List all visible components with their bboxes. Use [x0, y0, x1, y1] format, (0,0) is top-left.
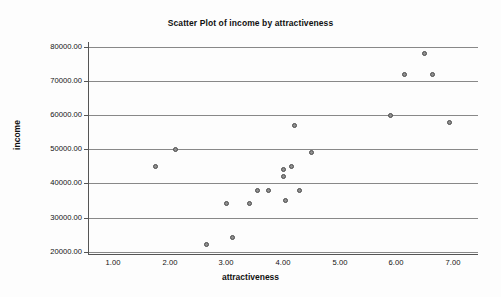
x-tick-label: 4.00 [263, 258, 303, 267]
scatter-point [153, 164, 158, 169]
chart-figure: Scatter Plot of income by attractiveness… [0, 0, 501, 297]
scatter-point [281, 167, 286, 172]
scatter-point [297, 188, 302, 193]
scatter-point [281, 174, 286, 179]
scatter-point [247, 201, 252, 206]
scatter-point [204, 242, 209, 247]
y-tick-label: 40000.00 [26, 178, 82, 187]
scatter-point [173, 147, 178, 152]
scatter-point [289, 164, 294, 169]
x-tick-label: 6.00 [376, 258, 416, 267]
x-tick-label: 7.00 [433, 258, 473, 267]
y-axis-label: income [12, 105, 22, 165]
x-axis-line [88, 254, 478, 255]
x-axis-label: attractiveness [0, 272, 501, 282]
y-tick-label: 80000.00 [26, 42, 82, 51]
x-tick-label: 2.00 [150, 258, 190, 267]
gridline-y [88, 183, 478, 184]
scatter-point [292, 123, 297, 128]
scatter-point [230, 235, 235, 240]
gridline-y [88, 149, 478, 150]
gridline-y [88, 218, 478, 219]
x-tick-label: 5.00 [320, 258, 360, 267]
scatter-point [430, 72, 435, 77]
scatter-point [255, 188, 260, 193]
scatter-point [283, 198, 288, 203]
y-tick-label: 20000.00 [26, 247, 82, 256]
chart-title: Scatter Plot of income by attractiveness [0, 18, 501, 28]
scatter-point [224, 201, 229, 206]
y-axis-line [88, 42, 89, 255]
gridline-y [88, 252, 478, 253]
scatter-point [422, 51, 427, 56]
y-tick-label: 50000.00 [26, 144, 82, 153]
scatter-point [402, 72, 407, 77]
y-tick-label: 70000.00 [26, 76, 82, 85]
scatter-point [447, 120, 452, 125]
gridline-y [88, 47, 478, 48]
x-tick-label: 1.00 [93, 258, 133, 267]
y-tick-label: 30000.00 [26, 213, 82, 222]
gridline-y [88, 81, 478, 82]
x-tick-label: 3.00 [206, 258, 246, 267]
scatter-point [309, 150, 314, 155]
scatter-point [388, 113, 393, 118]
gridline-y [88, 115, 478, 116]
y-tick-label: 60000.00 [26, 110, 82, 119]
scatter-point [266, 188, 271, 193]
